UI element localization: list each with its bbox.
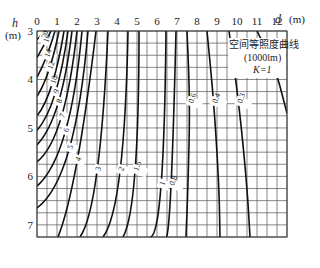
y-axis-unit: (m) bbox=[5, 29, 21, 42]
chart-annotation: K=1 bbox=[252, 64, 271, 75]
x-tick-label: 9 bbox=[214, 15, 220, 27]
x-tick-label: 10 bbox=[232, 15, 244, 27]
chart-legend-box: 空间等照度曲线 (1000lm) K=1 bbox=[228, 38, 299, 78]
isolux-curve-0.6 bbox=[186, 31, 189, 237]
y-axis-ticks: 34567 bbox=[28, 25, 34, 231]
isolux-curve-0.4 bbox=[207, 31, 220, 237]
y-tick-label: 7 bbox=[28, 219, 34, 231]
y-tick-label: 3 bbox=[28, 25, 34, 37]
x-tick-label: 7 bbox=[174, 15, 180, 27]
x-tick-label: 0 bbox=[34, 15, 40, 27]
chart-title: 空间等照度曲线 bbox=[229, 38, 299, 50]
isolux-curve-0.8 bbox=[166, 31, 176, 237]
x-tick-label: 8 bbox=[194, 15, 200, 27]
x-axis-unit: (m) bbox=[289, 13, 305, 26]
y-axis-label: h bbox=[12, 16, 18, 30]
x-tick-label: 1 bbox=[54, 15, 60, 27]
x-tick-label: 4 bbox=[114, 15, 120, 27]
y-tick-label: 6 bbox=[28, 170, 34, 182]
chart-subtitle: (1000lm) bbox=[244, 52, 281, 64]
y-tick-label: 5 bbox=[28, 122, 34, 134]
x-tick-label: 3 bbox=[94, 15, 100, 27]
x-tick-label: 6 bbox=[154, 15, 160, 27]
x-axis-label: d bbox=[275, 12, 282, 26]
x-tick-label: 2 bbox=[74, 15, 80, 27]
x-tick-label: 5 bbox=[134, 15, 140, 27]
isolux-curve-1.5 bbox=[123, 31, 139, 237]
isolux-chart: 2016141210987654321.510.80.60.40.30.2 01… bbox=[0, 0, 320, 268]
y-tick-label: 4 bbox=[28, 73, 34, 85]
x-axis-ticks: 0123456789101112 bbox=[34, 15, 282, 27]
x-tick-label: 11 bbox=[252, 15, 263, 27]
isolux-curve-1 bbox=[150, 31, 166, 237]
